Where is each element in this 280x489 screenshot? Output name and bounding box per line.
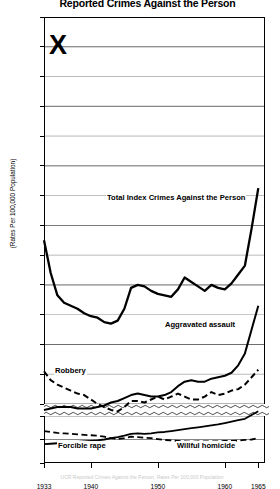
axis-tick xyxy=(40,76,44,77)
axis-tick xyxy=(91,463,92,468)
chart-canvas xyxy=(44,17,265,463)
axis-tick xyxy=(225,463,226,468)
y-axis-label: (Rates Per 100,000 Population) xyxy=(9,149,16,259)
chart-title: Reported Crimes Against the Person xyxy=(20,0,275,9)
label-total-index: Total Index Crimes Against the Person xyxy=(106,193,246,202)
axis-tick xyxy=(40,344,44,345)
axis-tick xyxy=(40,136,44,137)
axis-tick xyxy=(40,225,44,226)
label-willful-homicide: Willful homicide xyxy=(176,441,236,450)
axis-tick xyxy=(158,463,159,468)
plot-area: 3002001801601401201008060401050193319401… xyxy=(44,17,265,463)
label-robbery: Robbery xyxy=(54,366,87,375)
axis-tick xyxy=(40,439,44,440)
axis-tick xyxy=(40,404,44,405)
axis-tick xyxy=(40,374,44,375)
axis-tick xyxy=(40,165,44,166)
axis-tick xyxy=(40,416,44,417)
x-annotation-mark: X xyxy=(49,32,67,59)
axis-tick xyxy=(40,17,44,18)
axis-tick xyxy=(40,46,44,47)
axis-tick xyxy=(40,314,44,315)
chart-footer-note: UCR Reported Crimes Against the Person, … xyxy=(8,474,276,488)
axis-tick xyxy=(40,106,44,107)
label-aggravated-assault: Aggravated assault xyxy=(164,320,236,329)
axis-tick xyxy=(40,195,44,196)
axis-tick xyxy=(258,463,259,468)
label-forcible-rape: Forcible rape xyxy=(57,441,107,450)
axis-tick xyxy=(44,463,45,468)
axis-tick xyxy=(40,284,44,285)
axis-tick xyxy=(40,255,44,256)
